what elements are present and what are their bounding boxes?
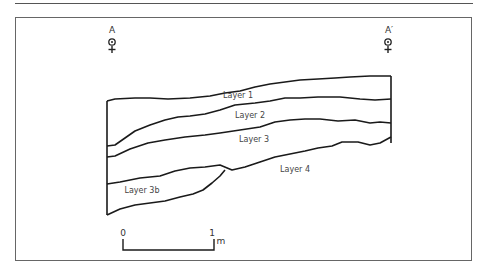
layer-1-label: Layer 1 <box>223 91 253 100</box>
marker-a-prime-label: A′ <box>385 25 393 35</box>
scale-start-label: 0 <box>120 228 126 238</box>
scale-bar: 0 1 m <box>120 228 225 250</box>
marker-a-prime: A′ <box>385 25 394 53</box>
layer-4-label: Layer 4 <box>280 165 310 174</box>
layer3-layer4-boundary <box>107 137 391 184</box>
cross-section-diagram: A A′ Layer 1 Layer 2 Layer 3 Layer 4 Lay… <box>0 0 488 273</box>
scale-unit-label: m <box>217 236 226 246</box>
marker-a-label: A <box>109 25 116 35</box>
layer-3b-label: Layer 3b <box>124 186 159 195</box>
layer-3-label: Layer 3 <box>239 135 269 144</box>
layer-2-label: Layer 2 <box>235 111 265 120</box>
marker-a: A <box>109 25 116 53</box>
scale-end-label: 1 <box>209 228 215 238</box>
